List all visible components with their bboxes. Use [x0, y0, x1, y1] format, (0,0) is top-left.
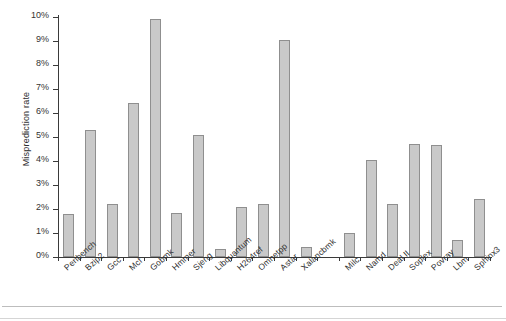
bar — [193, 135, 204, 257]
page-edge-divider — [2, 306, 502, 307]
bar — [63, 214, 74, 257]
bar — [387, 204, 398, 257]
bar-chart: Misprediction rate 0%1%2%3%4%5%6%7%8%9%1… — [0, 0, 506, 321]
bar — [128, 103, 139, 257]
x-axis-tick-mark — [123, 257, 124, 261]
y-axis-tick-label: 6% — [36, 106, 49, 116]
y-axis-tick-label: 7% — [36, 82, 49, 92]
x-axis-tick-label: Mcf — [127, 256, 144, 273]
y-axis-tick-label: 10% — [31, 10, 49, 20]
bar — [344, 233, 355, 257]
bar — [279, 40, 290, 257]
y-axis-tick-label: 5% — [36, 130, 49, 140]
bar — [474, 199, 485, 257]
bar — [107, 204, 118, 257]
x-axis-tick-mark — [58, 257, 59, 261]
y-axis-tick-label: 2% — [36, 202, 49, 212]
x-axis-tick-mark — [339, 257, 340, 261]
page-edge-divider-lower — [0, 318, 506, 319]
y-axis-title: Misprediction rate — [21, 59, 31, 199]
bar — [409, 144, 420, 257]
plot-area — [58, 17, 490, 257]
bar — [431, 145, 442, 257]
x-axis-tick-mark — [144, 257, 145, 261]
y-axis-tick-label: 1% — [36, 226, 49, 236]
bar — [366, 160, 377, 257]
y-axis-tick-label: 9% — [36, 34, 49, 44]
y-axis-tick-label: 3% — [36, 178, 49, 188]
bar — [150, 19, 161, 257]
y-axis-tick-label: 8% — [36, 58, 49, 68]
y-axis-tick-label: 0% — [36, 250, 49, 260]
y-axis-tick-label: 4% — [36, 154, 49, 164]
